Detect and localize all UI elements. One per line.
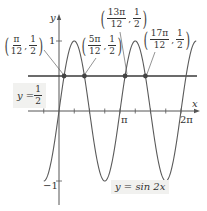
fraction-denominator: 2: [30, 46, 36, 56]
fraction-numerator: 17π: [150, 29, 169, 40]
left-paren: (: [82, 36, 87, 56]
x-tick-label-two-pi: 2π: [180, 115, 193, 125]
fraction-denominator: 2: [109, 46, 115, 56]
y-tick-label-neg-one: −1: [43, 181, 58, 191]
fraction-denominator: 12: [11, 46, 22, 56]
fraction-numerator: 1: [133, 8, 141, 19]
fraction-numerator: 1: [176, 29, 184, 40]
fraction-denominator: 12: [111, 19, 122, 29]
x-fraction: 13π12: [107, 8, 126, 29]
x-fraction: 5π12: [88, 35, 102, 56]
line-label-fraction: 1 2: [34, 85, 42, 106]
comma: ,: [171, 35, 174, 50]
point-label-17pi-12: ( 17π12 , 12 ): [142, 29, 192, 50]
curve-label: y = sin 2x: [111, 180, 169, 194]
fraction-denominator: 2: [134, 19, 140, 29]
fraction-numerator: 5π: [88, 35, 102, 46]
right-paren: ): [38, 36, 43, 56]
fraction-numerator: 1: [29, 35, 37, 46]
y-tick-label-one: 1: [49, 36, 55, 46]
intersection-dot: [123, 74, 128, 79]
intersection-dot: [82, 74, 87, 79]
y-fraction: 12: [108, 35, 116, 56]
fraction-numerator: π: [13, 35, 21, 46]
y-fraction: 12: [176, 29, 184, 50]
fraction-numerator: 1: [108, 35, 116, 46]
point-label-13pi-12: ( 13π12 , 12 ): [99, 8, 149, 29]
x-axis-label: x: [192, 99, 198, 109]
x-axis: [28, 109, 200, 114]
fraction-numerator: 13π: [107, 8, 126, 19]
right-paren: ): [118, 36, 123, 56]
x-tick-label-pi: π: [121, 115, 128, 125]
left-paren: (: [101, 9, 106, 29]
point-label-5pi-12: ( 5π12 , 12 ): [80, 35, 124, 56]
fraction-numerator: 1: [34, 85, 42, 96]
left-paren: (: [144, 30, 149, 50]
line-label-prefix: y =: [17, 90, 34, 101]
intersection-dot: [62, 74, 67, 79]
y-fraction: 12: [29, 35, 37, 56]
line-label-y-half: y = 1 2: [13, 83, 46, 108]
intersection-dot: [143, 74, 148, 79]
comma: ,: [128, 14, 131, 29]
comma: ,: [103, 41, 106, 56]
comma: ,: [24, 41, 27, 56]
right-paren: ): [142, 9, 147, 29]
x-fraction: π12: [11, 35, 22, 56]
left-paren: (: [5, 36, 10, 56]
point-label-pi-12: ( π12 , 12 ): [3, 35, 45, 56]
fraction-denominator: 2: [177, 40, 183, 50]
y-axis-label: y: [50, 13, 56, 23]
fraction-denominator: 12: [154, 40, 165, 50]
fraction-denominator: 12: [89, 46, 100, 56]
right-paren: ): [185, 30, 190, 50]
x-fraction: 17π12: [150, 29, 169, 50]
fraction-denominator: 2: [35, 96, 41, 106]
y-fraction: 12: [133, 8, 141, 29]
